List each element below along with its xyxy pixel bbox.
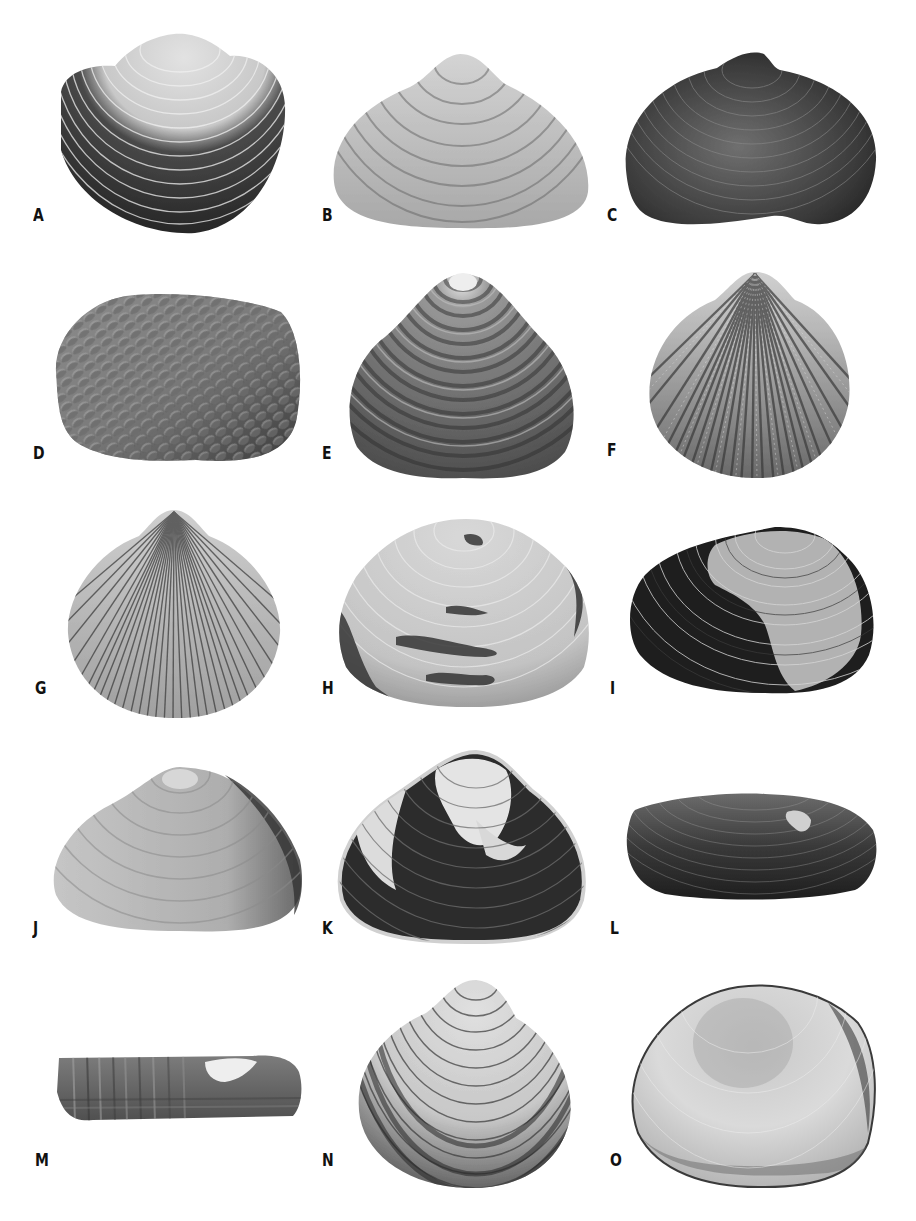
specimen-b xyxy=(330,52,592,230)
shell-c-icon xyxy=(622,50,878,230)
specimen-f xyxy=(645,270,853,480)
shell-h-icon xyxy=(336,517,593,708)
panel-label-k: K xyxy=(322,920,333,937)
shell-d-icon xyxy=(46,292,304,464)
shell-i-icon xyxy=(625,525,879,695)
panel-label-i: I xyxy=(610,680,615,697)
specimen-g xyxy=(64,508,283,720)
panel-label-o: O xyxy=(610,1152,622,1169)
panel-label-l: L xyxy=(610,920,619,937)
panel-label-c: C xyxy=(607,207,617,224)
specimen-d xyxy=(46,292,304,464)
specimen-e xyxy=(345,272,581,480)
specimen-i xyxy=(625,525,879,695)
shell-l-icon xyxy=(625,790,879,902)
specimen-h xyxy=(336,517,593,708)
shell-figure-plate: A B xyxy=(0,0,916,1221)
shell-a-icon xyxy=(55,30,287,234)
panel-label-b: B xyxy=(322,207,333,224)
shell-g-icon xyxy=(64,508,283,720)
specimen-m xyxy=(53,1052,304,1122)
panel-label-d: D xyxy=(33,445,45,462)
specimen-o xyxy=(628,983,879,1188)
panel-label-m: M xyxy=(35,1152,49,1169)
shell-m-icon xyxy=(53,1052,304,1122)
panel-label-h: H xyxy=(322,680,334,697)
panel-label-f: F xyxy=(607,442,617,459)
panel-label-a: A xyxy=(33,207,44,224)
shell-n-icon xyxy=(356,978,575,1190)
specimen-j xyxy=(50,765,307,933)
shell-k-icon xyxy=(336,750,590,943)
shell-e-icon xyxy=(345,272,581,480)
specimen-l xyxy=(625,790,879,902)
specimen-c xyxy=(622,50,878,230)
panel-label-g: G xyxy=(35,680,46,697)
panel-label-j: J xyxy=(33,920,38,937)
shell-j-icon xyxy=(50,765,307,933)
shell-o-icon xyxy=(628,983,879,1188)
shell-b-icon xyxy=(330,52,592,230)
shell-f-icon xyxy=(645,270,853,480)
panel-label-e: E xyxy=(322,445,332,462)
panel-label-n: N xyxy=(322,1152,334,1169)
specimen-n xyxy=(356,978,575,1190)
specimen-k xyxy=(336,750,590,943)
specimen-a xyxy=(55,30,287,234)
